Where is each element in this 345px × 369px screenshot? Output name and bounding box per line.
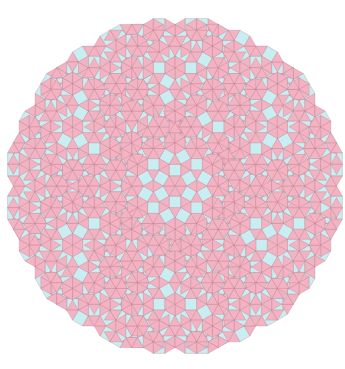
tiling-figure bbox=[0, 0, 345, 369]
square-triangle-tiling bbox=[0, 0, 345, 369]
square-tile bbox=[88, 218, 100, 230]
square-tile bbox=[293, 218, 305, 230]
square-tile bbox=[169, 196, 181, 208]
square-tile bbox=[191, 202, 203, 214]
square-tile bbox=[153, 62, 165, 74]
square-tile bbox=[250, 143, 262, 155]
square-tile bbox=[88, 143, 100, 155]
square-tile bbox=[185, 62, 197, 74]
square-tile bbox=[212, 121, 224, 133]
square-tile bbox=[185, 298, 197, 310]
triangle-tiles bbox=[8, 19, 343, 354]
square-tile bbox=[148, 159, 160, 171]
square-tile bbox=[191, 159, 203, 171]
square-tile bbox=[148, 202, 160, 214]
square-tile bbox=[250, 218, 262, 230]
square-tile bbox=[169, 164, 181, 176]
square-tile bbox=[256, 239, 268, 251]
square-tile bbox=[153, 298, 165, 310]
